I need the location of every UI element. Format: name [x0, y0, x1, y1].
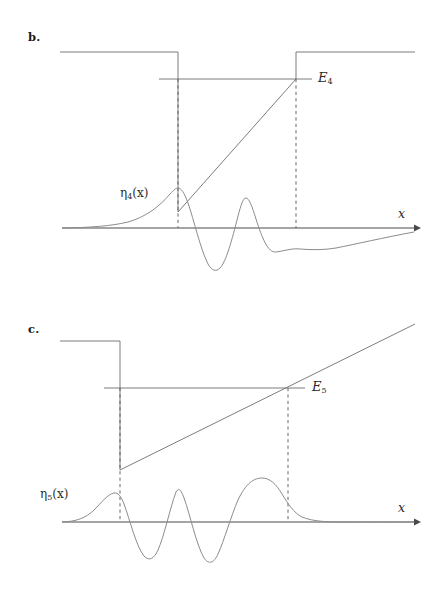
- potential-ramp-b: [178, 79, 296, 212]
- eta-arg-c: (x): [52, 487, 68, 501]
- wavefunction-label-c: η5(x): [40, 487, 68, 501]
- panel-b-graphics: [0, 0, 440, 302]
- x-axis-arrowhead-b: [414, 225, 421, 232]
- eta-subscript-c: 5: [47, 493, 52, 502]
- eta-arg-b: (x): [132, 186, 148, 200]
- potential-left-wall-c: [60, 341, 120, 470]
- energy-subscript-b: 4: [328, 77, 333, 86]
- x-axis-label-b: x: [398, 206, 405, 221]
- panel-c-graphics: [0, 302, 440, 604]
- energy-symbol-b: E: [318, 70, 328, 85]
- x-axis-arrowhead-c: [414, 519, 421, 526]
- potential-left-wall-b: [60, 52, 178, 212]
- figure-container: b. η4(x) E4 x c.: [0, 0, 440, 604]
- wavefunction-label-b: η4(x): [120, 186, 148, 200]
- energy-label-b: E4: [318, 70, 333, 85]
- eta-subscript-b: 4: [127, 192, 132, 201]
- x-axis-label-c: x: [398, 500, 405, 515]
- potential-right-wall-b: [296, 52, 415, 79]
- energy-symbol-c: E: [312, 379, 322, 394]
- energy-label-c: E5: [312, 379, 327, 394]
- wavefunction-eta5-curve: [62, 478, 414, 562]
- wavefunction-eta4-curve: [62, 188, 414, 270]
- panel-b: b. η4(x) E4 x: [0, 0, 440, 302]
- energy-subscript-c: 5: [322, 386, 327, 395]
- panel-c: c. η5(x) E5 x: [0, 302, 440, 604]
- potential-ramp-c: [120, 324, 415, 470]
